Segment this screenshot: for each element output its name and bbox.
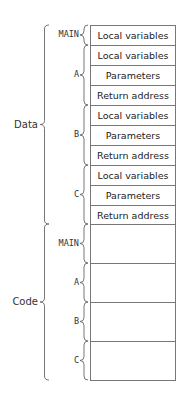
curly-brace-icon bbox=[80, 45, 88, 105]
curly-brace-icon bbox=[80, 224, 88, 263]
curly-brace-icon bbox=[80, 105, 88, 165]
curly-brace-icon bbox=[80, 165, 88, 224]
curly-brace-icon bbox=[40, 25, 49, 224]
curly-brace-icon bbox=[80, 263, 88, 302]
curly-brace-icon bbox=[80, 302, 88, 341]
brace-icons bbox=[0, 0, 186, 396]
curly-brace-icon bbox=[80, 25, 88, 45]
curly-brace-icon bbox=[40, 224, 49, 380]
curly-brace-icon bbox=[80, 341, 88, 380]
